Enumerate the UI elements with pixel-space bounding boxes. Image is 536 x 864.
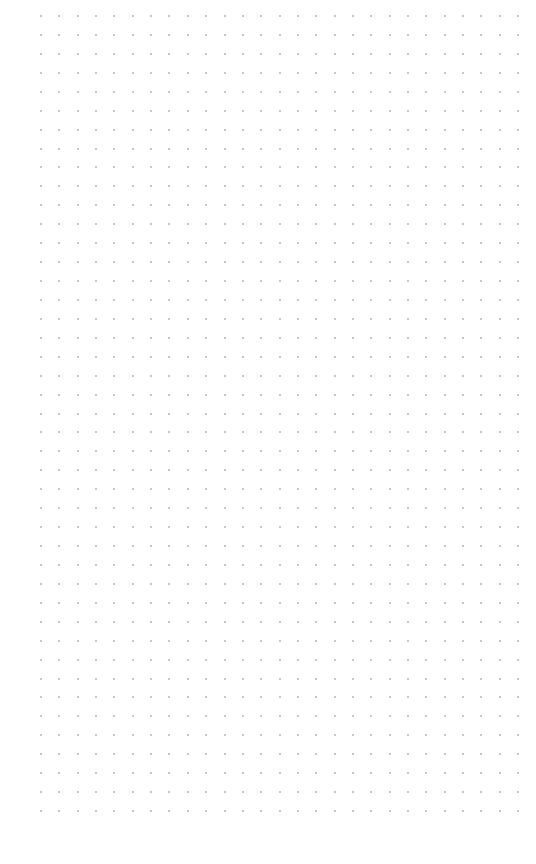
grid-dot — [517, 15, 519, 17]
grid-dot — [187, 280, 189, 282]
grid-dot — [444, 678, 446, 680]
grid-dot — [407, 356, 409, 358]
grid-dot — [260, 34, 262, 36]
grid-dot — [279, 356, 281, 358]
grid-dot — [334, 526, 336, 528]
grid-dot — [187, 602, 189, 604]
grid-dot — [224, 621, 226, 623]
grid-dot — [407, 166, 409, 168]
grid-dot — [132, 469, 134, 471]
grid-dot — [205, 659, 207, 661]
grid-dot — [242, 621, 244, 623]
grid-dot — [205, 545, 207, 547]
grid-dot — [389, 545, 391, 547]
grid-dot — [425, 299, 427, 301]
grid-dot — [352, 602, 354, 604]
grid-dot — [389, 413, 391, 415]
grid-dot — [224, 583, 226, 585]
grid-dot — [352, 753, 354, 755]
grid-dot — [444, 772, 446, 774]
grid-dot — [260, 564, 262, 566]
grid-dot — [260, 772, 262, 774]
grid-dot — [168, 583, 170, 585]
grid-dot — [77, 791, 79, 793]
grid-dot — [260, 640, 262, 642]
grid-dot — [242, 640, 244, 642]
grid-dot — [150, 15, 152, 17]
grid-dot — [499, 280, 501, 282]
grid-dot — [77, 375, 79, 377]
grid-dot — [95, 791, 97, 793]
grid-dot — [425, 621, 427, 623]
grid-dot — [425, 431, 427, 433]
grid-dot — [95, 734, 97, 736]
grid-dot — [279, 223, 281, 225]
grid-dot — [279, 204, 281, 206]
grid-dot — [113, 394, 115, 396]
grid-dot — [462, 34, 464, 36]
grid-dot — [77, 129, 79, 131]
grid-dot — [205, 166, 207, 168]
grid-dot — [242, 715, 244, 717]
grid-dot — [370, 375, 372, 377]
grid-dot — [150, 753, 152, 755]
grid-dot — [370, 91, 372, 93]
grid-dot — [352, 394, 354, 396]
grid-dot — [370, 621, 372, 623]
grid-dot — [499, 659, 501, 661]
grid-dot — [95, 204, 97, 206]
grid-dot — [517, 53, 519, 55]
grid-dot — [113, 734, 115, 736]
grid-dot — [40, 431, 42, 433]
grid-dot — [425, 72, 427, 74]
grid-dot — [150, 526, 152, 528]
grid-dot — [389, 488, 391, 490]
grid-dot — [95, 318, 97, 320]
grid-dot — [480, 15, 482, 17]
grid-dot — [279, 753, 281, 755]
grid-dot — [517, 488, 519, 490]
grid-dot — [352, 185, 354, 187]
grid-dot — [297, 375, 299, 377]
grid-dot — [187, 734, 189, 736]
grid-dot — [113, 280, 115, 282]
grid-dot — [40, 280, 42, 282]
grid-dot — [517, 337, 519, 339]
grid-dot — [132, 640, 134, 642]
grid-dot — [58, 166, 60, 168]
grid-dot — [480, 659, 482, 661]
grid-dot — [297, 53, 299, 55]
grid-dot — [389, 469, 391, 471]
grid-dot — [168, 526, 170, 528]
grid-dot — [40, 185, 42, 187]
grid-dot — [334, 753, 336, 755]
grid-dot — [132, 564, 134, 566]
grid-dot — [132, 223, 134, 225]
grid-dot — [205, 602, 207, 604]
grid-dot — [150, 602, 152, 604]
grid-dot — [480, 791, 482, 793]
grid-dot — [499, 223, 501, 225]
grid-dot — [425, 148, 427, 150]
grid-dot — [168, 148, 170, 150]
grid-dot — [150, 204, 152, 206]
grid-dot — [370, 394, 372, 396]
grid-dot — [205, 507, 207, 509]
grid-dot — [113, 91, 115, 93]
grid-dot — [77, 678, 79, 680]
grid-dot — [58, 469, 60, 471]
grid-dot — [168, 261, 170, 263]
grid-dot — [132, 129, 134, 131]
grid-dot — [132, 621, 134, 623]
grid-dot — [260, 148, 262, 150]
grid-dot — [40, 129, 42, 131]
grid-dot — [95, 583, 97, 585]
grid-dot — [480, 545, 482, 547]
grid-dot — [77, 659, 79, 661]
grid-dot — [113, 337, 115, 339]
grid-dot — [168, 318, 170, 320]
grid-dot — [352, 223, 354, 225]
grid-dot — [334, 696, 336, 698]
grid-dot — [187, 621, 189, 623]
grid-dot — [370, 72, 372, 74]
